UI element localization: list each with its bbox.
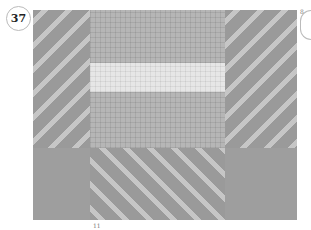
figure-number: 37 [11, 12, 26, 25]
bottom-right [225, 148, 297, 220]
bottom-center [90, 148, 225, 220]
weave-diagram [33, 10, 297, 220]
bottom-mark: 11 [93, 222, 101, 229]
bottom-left [33, 148, 90, 220]
figure-number-badge: 37 [6, 6, 31, 31]
center-light-band [90, 63, 225, 92]
next-figure-edge [300, 10, 311, 40]
right-strip [225, 10, 297, 148]
left-strip [33, 10, 90, 148]
